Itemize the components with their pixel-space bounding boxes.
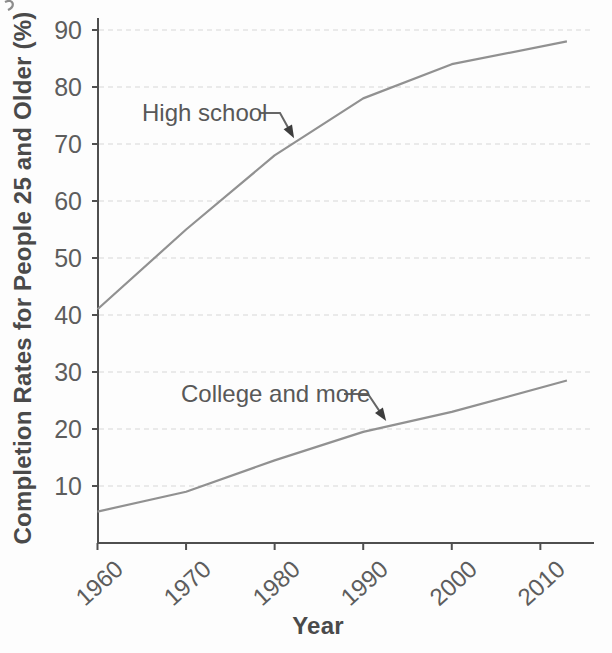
chart-canvas [0, 0, 612, 653]
y-tick-label: 60 [18, 186, 82, 216]
y-tick-label: 10 [18, 471, 82, 501]
y-tick-label: 30 [18, 357, 82, 387]
education-completion-line-chart: Completion Rates for People 25 and Older… [0, 0, 612, 653]
y-tick-label: 40 [18, 300, 82, 330]
annotation-high-school: High school [142, 99, 267, 127]
y-tick-label: 50 [18, 243, 82, 273]
y-tick-label: 70 [18, 129, 82, 159]
series-line-high-school [98, 41, 567, 309]
annotation-college-and-more: College and more [181, 380, 370, 408]
annotation-arrow-head [284, 125, 295, 139]
y-tick-label: 80 [18, 72, 82, 102]
annotation-arrow-head [375, 408, 386, 421]
y-tick-label: 90 [18, 15, 82, 45]
y-tick-label: 20 [18, 414, 82, 444]
